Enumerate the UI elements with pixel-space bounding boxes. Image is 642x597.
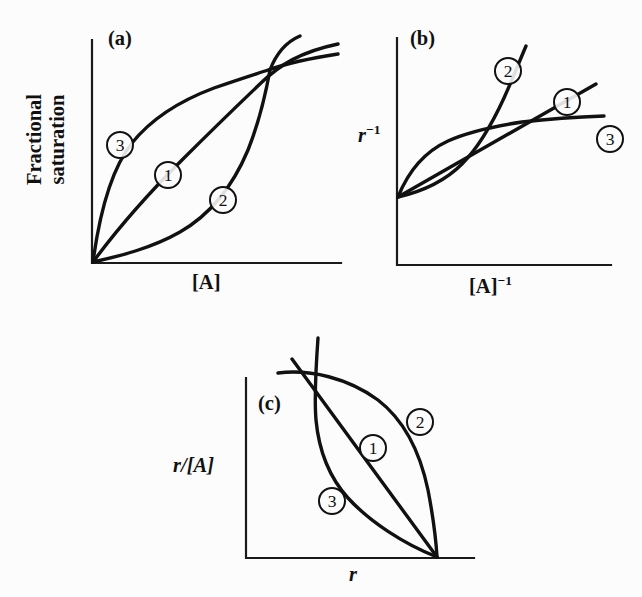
panel-a-curve-3 bbox=[93, 54, 338, 262]
panel-a-curve-label-2: 2 bbox=[209, 186, 237, 214]
panel-b-x-axis-label: [A]−1 bbox=[469, 274, 512, 296]
panel-a-y-axis-label-line2: saturation bbox=[46, 65, 67, 215]
panel-b-tag: (b) bbox=[410, 28, 435, 49]
panel-b-y-axis-label-sup: −1 bbox=[366, 122, 380, 137]
panel-b-y-axis-label: r−1 bbox=[358, 123, 380, 145]
panel-c-x-axis-label: r bbox=[349, 564, 357, 585]
panel-c-curve-label-3: 3 bbox=[318, 487, 346, 515]
panel-c-y-axis-label-main: r/[A] bbox=[173, 454, 214, 476]
panel-b-curve-label-3: 3 bbox=[596, 125, 624, 153]
panel-c-y-axis-label: r/[A] bbox=[173, 455, 214, 476]
panel-b-curve-label-2: 2 bbox=[494, 57, 522, 85]
panel-a-x-axis-label: [A] bbox=[192, 272, 220, 293]
binding-curves-figure: (a) Fractional saturation [A] 3 1 2 (b) … bbox=[0, 0, 642, 597]
panel-a-curve-label-1: 1 bbox=[154, 161, 182, 189]
panel-b-y-axis-label-main: r bbox=[358, 124, 366, 146]
panel-b-curve-label-1: 1 bbox=[553, 88, 581, 116]
panel-c-curves bbox=[278, 338, 437, 557]
panel-a-y-axis-label-line1: Fractional bbox=[23, 94, 45, 185]
panel-a-curve-label-3: 3 bbox=[106, 131, 134, 159]
panel-c-tag: (c) bbox=[258, 393, 281, 414]
panel-c-curve-2 bbox=[278, 372, 437, 557]
panel-a-y-axis-label: Fractional saturation bbox=[24, 65, 67, 215]
panel-c-curve-label-1: 1 bbox=[359, 434, 387, 462]
panel-b-x-axis-label-main: [A] bbox=[469, 275, 497, 297]
panel-b-x-axis-label-sup: −1 bbox=[497, 273, 511, 288]
panel-c-curve-label-2: 2 bbox=[406, 408, 434, 436]
panel-a-tag: (a) bbox=[108, 28, 132, 49]
